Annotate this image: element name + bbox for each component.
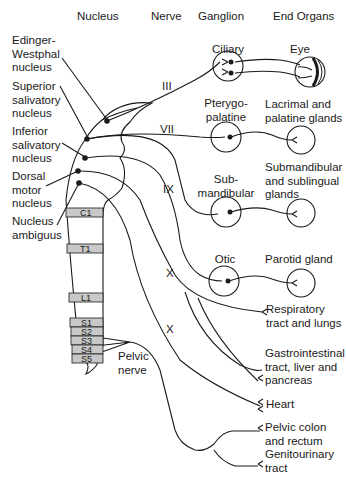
label-nerve-iii: III [162, 80, 172, 93]
nerve-x-lower-path [79, 183, 260, 406]
submandibular-gland-organ [287, 199, 315, 227]
otic-ganglion [209, 266, 239, 296]
superior-salivatory-dot [84, 136, 90, 142]
inferior-salivatory-dot [82, 155, 88, 161]
label-gastrointestinal-tract: Gastrointestinal tract, liver and pancre… [265, 347, 345, 388]
segment-label-c1: C1 [80, 208, 92, 218]
label-eye: Eye [290, 43, 310, 57]
eye-organ [295, 57, 325, 87]
label-nerve-vii: VII [160, 123, 174, 136]
label-submandibular-ganglion: Sub- mandibular [193, 173, 259, 200]
label-respiratory-tract: Respiratory tract and lungs [266, 303, 341, 330]
postganglionic-ciliary-upper [235, 59, 300, 65]
label-ciliary-ganglion: Ciliary [205, 43, 251, 57]
label-parotid-gland: Parotid gland [265, 253, 333, 267]
label-pterygopalatine-ganglion: Pterygo- palatine [196, 97, 256, 124]
label-submandibular-sublingual-glands: Submandibular and sublingual glands [265, 161, 342, 202]
label-genitourinary-tract: Genitourinary tract [265, 448, 334, 475]
header-end-organs: End Organs [273, 10, 334, 23]
label-nerve-x-lower: X [166, 323, 174, 336]
pointer-edinger-westphal [62, 58, 108, 121]
nucleus-ambiguus-dot [76, 180, 82, 186]
label-superior-salivatory-nucleus: Superior salivatory nucleus [12, 80, 61, 121]
label-heart: Heart [266, 398, 294, 412]
edinger-westphal-dot [104, 118, 110, 124]
label-otic-ganglion: Otic [205, 253, 245, 267]
dorsal-motor-dot [75, 168, 81, 174]
pointer-superior-salivatory [60, 86, 88, 138]
label-dorsal-motor-nucleus: Dorsal motor nucleus [12, 170, 52, 211]
label-pelvic-nerve: Pelvic nerve [118, 350, 149, 377]
label-edinger-westphal-nucleus: Edinger- Westphal nucleus [12, 34, 60, 75]
label-lacrimal-palatine-glands: Lacrimal and palatine glands [265, 98, 342, 125]
segment-label-s5: S5 [81, 354, 92, 364]
label-inferior-salivatory-nucleus: Inferior salivatory nucleus [12, 125, 61, 166]
header-nucleus: Nucleus [77, 10, 119, 23]
segment-label-l1: L1 [81, 293, 91, 303]
header-nerve: Nerve [151, 10, 182, 23]
label-nucleus-ambiguus: Nucleus ambiguus [12, 215, 62, 242]
label-pelvic-colon-rectum: Pelvic colon and rectum [265, 421, 326, 448]
label-nerve-x-upper: X [166, 267, 174, 280]
submandibular-ganglion [211, 197, 241, 227]
label-nerve-ix: IX [163, 183, 174, 196]
header-ganglion: Ganglion [198, 10, 244, 23]
segment-label-t1: T1 [80, 244, 91, 254]
postganglionic-ciliary-lower [235, 71, 300, 77]
